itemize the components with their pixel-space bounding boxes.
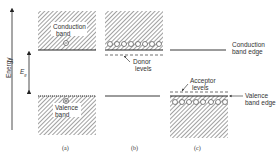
donor-levels-label: Donor [133, 58, 151, 65]
energy-axis-label: Energy [5, 57, 12, 78]
conduction-band-label: Conduction [53, 23, 86, 30]
caption-a: (a) [62, 145, 69, 151]
band-diagram-canvas [0, 0, 280, 155]
acceptor-levels-label: Acceptor [190, 77, 216, 84]
gap-subscript: g [24, 72, 26, 77]
conduction-edge-label-2: band edge [232, 48, 263, 55]
conduction-edge-label: Conduction [232, 41, 265, 48]
donor-levels-label-2: levels [135, 65, 152, 72]
valence-edge-label: Valence [245, 92, 268, 99]
valence-band-label: Valence [55, 104, 78, 111]
valence-edge-label-2: band edge [245, 99, 276, 106]
acceptor-levels-label-2: levels [192, 84, 209, 91]
band-gap-label: Eg [20, 68, 27, 78]
caption-b: (b) [131, 145, 138, 151]
conduction-band-label-2: band [56, 30, 70, 37]
caption-c: (c) [194, 145, 201, 151]
valence-band-label-2: band [55, 111, 69, 118]
